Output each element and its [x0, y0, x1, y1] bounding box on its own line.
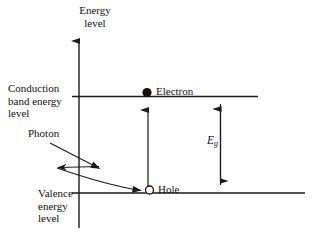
band-gap-label: Eg: [207, 134, 218, 151]
photon-left-arrow: [58, 167, 99, 168]
hole-label: Hole: [158, 183, 179, 196]
energy-band-diagram-figure: Energylevel Conductionband energylevel V…: [0, 0, 319, 242]
valence-band-label-line3: level: [38, 212, 59, 224]
conduction-band-label-line1: Conduction: [8, 82, 59, 94]
energy-axis-label: Energylevel: [66, 4, 124, 29]
conduction-band-label: Conductionband energylevel: [8, 82, 62, 120]
valence-band-label-line2: energy: [38, 200, 68, 212]
electron-marker: [142, 88, 151, 97]
electron-label: Electron: [156, 85, 193, 98]
photon-label: Photon: [28, 127, 59, 140]
photon-leader-arrow: [50, 143, 100, 169]
hole-marker: [146, 186, 154, 194]
energy-axis-label-line2: level: [84, 17, 105, 29]
band-gap-subscript: g: [214, 139, 218, 148]
conduction-band-label-line2: band energy: [8, 95, 62, 107]
band-gap-symbol: E: [207, 134, 214, 146]
conduction-band-label-line3: level: [8, 107, 29, 119]
valence-band-label: Valenceenergylevel: [38, 187, 73, 225]
energy-axis-label-line1: Energy: [79, 4, 111, 16]
valence-band-label-line1: Valence: [38, 187, 73, 199]
